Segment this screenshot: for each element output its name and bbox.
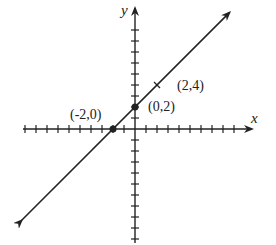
point-label-0-2: (0,2) (148, 100, 175, 114)
point-label-2-4: (2,4) (177, 79, 204, 93)
point-marker-dot (110, 126, 117, 133)
line-y-equals-x-plus-2 (22, 12, 230, 220)
x-axis-label: x (251, 111, 258, 126)
point-label-neg2-0: (-2,0) (70, 108, 102, 122)
y-axis (131, 8, 139, 243)
point-marker-dot (132, 104, 139, 111)
coordinate-plane (0, 0, 276, 245)
y-axis-label: y (121, 3, 128, 18)
x-axis (23, 125, 252, 133)
